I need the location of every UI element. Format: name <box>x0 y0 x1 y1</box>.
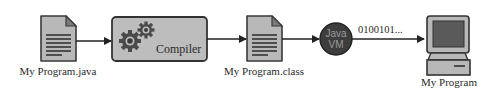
class-file-label: My Program.class <box>224 65 304 77</box>
program-label: My Program <box>421 76 477 88</box>
compiler-label: Compiler <box>156 42 201 57</box>
binary-output-label: 0100101... <box>358 24 403 35</box>
diagram-canvas <box>0 0 489 91</box>
java-file-label: My Program.java <box>20 65 97 77</box>
jvm-label-line2: VM <box>319 39 353 50</box>
java-file-document-icon <box>41 16 76 61</box>
computer-icon <box>427 16 470 75</box>
jvm-label: Java VM <box>319 28 353 50</box>
class-file-document-icon <box>247 16 282 61</box>
jvm-label-line1: Java <box>319 28 353 39</box>
